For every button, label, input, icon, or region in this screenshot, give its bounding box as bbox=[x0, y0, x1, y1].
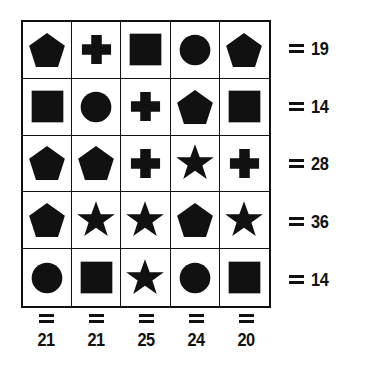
column-sums-row: 21 21 25 24 20 bbox=[21, 310, 271, 372]
column-sum-value: 20 bbox=[237, 330, 254, 349]
row-sum: 14 bbox=[277, 250, 367, 308]
pentagon-shape bbox=[28, 201, 66, 239]
grid-cell bbox=[121, 136, 170, 193]
equals-icon bbox=[239, 313, 254, 324]
equals-icon bbox=[289, 101, 304, 112]
column-sum-value: 21 bbox=[37, 330, 54, 349]
column-sum-value: 25 bbox=[137, 330, 154, 349]
grid-cell bbox=[121, 192, 170, 249]
grid-cell bbox=[72, 79, 121, 136]
grid-cell bbox=[72, 22, 121, 79]
shape-grid bbox=[21, 20, 271, 308]
column-sum-value: 21 bbox=[87, 330, 104, 349]
cross-shape bbox=[130, 91, 161, 122]
grid-cell bbox=[72, 249, 121, 306]
row-sum-value: 19 bbox=[311, 39, 328, 58]
grid-cell bbox=[171, 249, 220, 306]
cross-shape bbox=[130, 148, 161, 179]
circle-shape bbox=[80, 91, 112, 123]
equals-icon bbox=[189, 313, 204, 324]
star-shape bbox=[125, 258, 165, 298]
equals-icon bbox=[289, 216, 304, 227]
circle-shape bbox=[179, 262, 211, 294]
grid-cell bbox=[171, 136, 220, 193]
star-shape bbox=[224, 200, 264, 240]
circle-shape bbox=[31, 262, 63, 294]
grid-cell bbox=[23, 22, 72, 79]
row-sum-value: 14 bbox=[311, 270, 328, 289]
grid-cell bbox=[220, 22, 269, 79]
grid-cell bbox=[220, 136, 269, 193]
square-shape bbox=[31, 90, 64, 123]
grid-cell bbox=[220, 249, 269, 306]
pentagon-shape bbox=[28, 144, 66, 182]
star-shape bbox=[175, 143, 215, 183]
grid-cell bbox=[23, 249, 72, 306]
pentagon-shape bbox=[77, 144, 115, 182]
pentagon-shape bbox=[225, 31, 263, 69]
row-sum: 36 bbox=[277, 193, 367, 251]
row-sum-value: 14 bbox=[311, 97, 328, 116]
pentagon-shape bbox=[28, 31, 66, 69]
grid-cell bbox=[72, 192, 121, 249]
column-sum: 21 bbox=[21, 310, 71, 372]
column-sum: 20 bbox=[221, 310, 271, 372]
grid-cell bbox=[121, 22, 170, 79]
row-sum-value: 36 bbox=[311, 212, 328, 231]
equals-icon bbox=[289, 43, 304, 54]
column-sum: 25 bbox=[121, 310, 171, 372]
star-shape bbox=[76, 200, 116, 240]
grid-cell bbox=[220, 79, 269, 136]
grid-cell bbox=[23, 136, 72, 193]
square-shape bbox=[129, 33, 162, 66]
equals-icon bbox=[89, 313, 104, 324]
grid-cell bbox=[171, 22, 220, 79]
column-sum-value: 24 bbox=[187, 330, 204, 349]
grid-cell bbox=[121, 249, 170, 306]
column-sum: 21 bbox=[71, 310, 121, 372]
equals-icon bbox=[139, 313, 154, 324]
row-sum: 19 bbox=[277, 20, 367, 78]
grid-cell bbox=[72, 136, 121, 193]
star-shape bbox=[125, 200, 165, 240]
square-shape bbox=[80, 261, 113, 294]
grid-cell bbox=[23, 79, 72, 136]
grid-cell bbox=[171, 79, 220, 136]
square-shape bbox=[228, 90, 261, 123]
cross-shape bbox=[81, 34, 112, 65]
grid-cell bbox=[171, 192, 220, 249]
grid-cell bbox=[220, 192, 269, 249]
row-sum-value: 28 bbox=[311, 154, 328, 173]
row-sums-column: 19 14 28 36 14 bbox=[277, 20, 367, 308]
row-sum: 14 bbox=[277, 78, 367, 136]
column-sum: 24 bbox=[171, 310, 221, 372]
shape-sum-puzzle: 19 14 28 36 14 21 21 25 bbox=[0, 0, 370, 382]
pentagon-shape bbox=[176, 88, 214, 126]
circle-shape bbox=[179, 34, 211, 66]
grid-cell bbox=[121, 79, 170, 136]
equals-icon bbox=[289, 158, 304, 169]
square-shape bbox=[228, 261, 261, 294]
row-sum: 28 bbox=[277, 135, 367, 193]
equals-icon bbox=[289, 274, 304, 285]
pentagon-shape bbox=[176, 201, 214, 239]
grid-cell bbox=[23, 192, 72, 249]
equals-icon bbox=[39, 313, 54, 324]
cross-shape bbox=[229, 148, 260, 179]
